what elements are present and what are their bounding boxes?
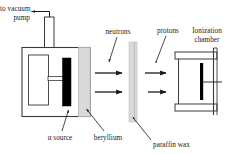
protons-leader-line [156, 36, 166, 62]
vacuum-pump-label-line1: to vacuum [0, 5, 30, 14]
vacuum-tube-body [45, 17, 55, 48]
ionization-bottom-plate [175, 104, 217, 111]
vacuum-pump-arrow [32, 12, 50, 18]
ionization-chamber [175, 48, 222, 115]
paraffin-wax-label: paraffin wax [153, 141, 225, 150]
neutron-discovery-diagram: to vacuum pump neutrons protons Ionizati… [0, 0, 228, 154]
vacuum-chamber [22, 48, 90, 117]
beryllium-label: beryllium [82, 134, 134, 143]
proton-beam [145, 36, 166, 92]
beryllium-target [79, 48, 91, 117]
ionization-top-plate [175, 52, 217, 59]
source-connector [48, 77, 64, 81]
neutron-beam [95, 37, 122, 92]
beryllium-leader-line [87, 109, 105, 131]
ionization-electrode [200, 63, 203, 100]
protons-label: protons [148, 27, 188, 36]
alpha-source [63, 58, 72, 106]
vacuum-pump-label-line2: pump [0, 14, 30, 23]
neutrons-leader-line [109, 37, 117, 62]
alpha-source-label: α source [34, 134, 86, 143]
diagram-canvas [0, 0, 228, 154]
paraffin-wax-slab [129, 42, 137, 122]
vacuum-pump-tube [32, 12, 55, 48]
paraffin-wax-leader-line [134, 118, 152, 140]
ionization-chamber-label-line1: Ionization [186, 27, 228, 36]
neutrons-label: neutrons [96, 28, 140, 37]
paraffin-wax-body [129, 42, 137, 122]
source-holder [29, 55, 49, 105]
ionization-chamber-label-line2: chamber [186, 36, 228, 45]
